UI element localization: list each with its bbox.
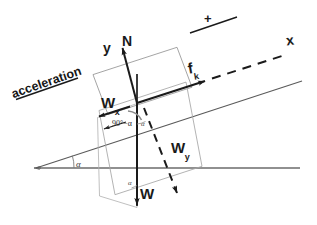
weight-y-subscript: y bbox=[185, 152, 190, 162]
diagram-vector-graphics bbox=[0, 0, 317, 225]
angle-complement-label: 90°−α bbox=[112, 120, 132, 128]
angle-alpha-arc-base bbox=[72, 156, 74, 168]
weight-y-label: Wy bbox=[171, 140, 190, 159]
angle-alpha-base-label: α bbox=[76, 160, 81, 169]
weight-x-label: Wx bbox=[101, 95, 120, 114]
weight-y-base: W bbox=[171, 139, 185, 156]
incline-surface-line bbox=[36, 81, 302, 168]
positive-direction-line bbox=[190, 17, 237, 33]
y-axis-label: y bbox=[103, 41, 111, 55]
x-axis-label: x bbox=[285, 33, 295, 48]
angle-alpha-bottom-label: α bbox=[128, 180, 132, 187]
positive-direction-label: + bbox=[204, 12, 212, 25]
x-axis-dashed-line bbox=[212, 56, 282, 79]
angle-alpha-origin-label: α bbox=[141, 121, 145, 128]
normal-force-arrow bbox=[123, 48, 138, 103]
normal-force-label: N bbox=[122, 34, 132, 48]
weight-x-subscript: x bbox=[115, 107, 120, 117]
friction-force-arrow bbox=[137, 81, 205, 103]
physics-diagram-canvas: acceleration + x y N fk Wx Wy W 90°−α α … bbox=[0, 0, 317, 225]
weight-x-base: W bbox=[101, 94, 115, 111]
weight-label: W bbox=[140, 186, 154, 201]
